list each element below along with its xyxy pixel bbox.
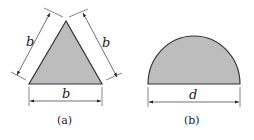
label-side-left: b: [26, 34, 34, 49]
triangle-shape: [29, 21, 102, 84]
caption-a: (a): [57, 114, 72, 127]
label-side-right: b: [102, 35, 110, 50]
diagram-canvas: b b b (a) d (b): [0, 0, 254, 140]
figure: b b b (a) d (b): [0, 0, 254, 140]
triangle-figure: b b b (a): [11, 8, 122, 127]
semicircle-figure: d (b): [148, 36, 240, 127]
label-diameter: d: [189, 87, 197, 102]
semicircle-shape: [148, 36, 240, 84]
caption-b: (b): [184, 114, 200, 127]
label-base: b: [62, 86, 70, 101]
